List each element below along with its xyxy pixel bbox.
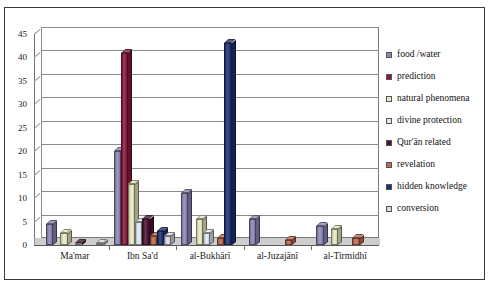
legend-item[interactable]: natural phenomena [386, 88, 482, 110]
legend-item[interactable]: hidden knowledge [386, 176, 482, 198]
legend-item[interactable]: divine protection [386, 110, 482, 132]
bar[interactable] [75, 243, 82, 245]
bar[interactable] [150, 236, 157, 245]
x-axis-tick-label: al-Bukhārī [176, 251, 244, 261]
gridline [41, 215, 379, 216]
bar-front-face [331, 229, 338, 245]
bar-front-face [203, 233, 210, 245]
legend-item-label: prediction [397, 72, 436, 82]
bar[interactable] [135, 222, 142, 245]
legend-item-label: divine protection [397, 116, 462, 126]
bar-front-face [75, 243, 82, 245]
x-axis-tick-label: al-Juzajānī [244, 251, 312, 261]
bar-side-face [53, 221, 57, 245]
y-axis-tick-label: 40 [0, 53, 27, 62]
gridline [41, 121, 379, 122]
legend-swatch-icon [386, 140, 392, 146]
x-axis-tick-mark [176, 245, 177, 250]
x-axis-tick-label: al-Tirmidhī [311, 251, 379, 261]
legend-item[interactable]: prediction [386, 66, 482, 88]
y-axis-tick-label: 10 [0, 194, 27, 203]
x-axis-baseline [34, 245, 379, 246]
bar[interactable] [224, 43, 231, 245]
bar[interactable] [164, 236, 171, 245]
legend-item[interactable]: Qur'ān related [386, 132, 482, 154]
y-axis-tick-label: 20 [0, 147, 27, 156]
gridline [41, 97, 379, 98]
bar[interactable] [196, 219, 203, 245]
y-axis-front-edge [34, 34, 35, 245]
legend-item-label: Qur'ān related [397, 138, 451, 148]
y-axis-tick-label: 25 [0, 123, 27, 132]
legend-item[interactable]: food /water [386, 44, 482, 66]
x-axis-tick-mark [109, 245, 110, 250]
legend-swatch-icon [386, 206, 392, 212]
gridline [41, 168, 379, 169]
gridline [41, 74, 379, 75]
bar-front-face [121, 53, 128, 245]
legend-item-label: revelation [397, 160, 435, 170]
gridline [41, 50, 379, 51]
bar-front-face [164, 236, 171, 245]
bar[interactable] [121, 53, 128, 245]
gridline [41, 191, 379, 192]
bar-front-face [135, 222, 142, 245]
x-axis-tick-label: Ma'mar [41, 251, 109, 261]
legend-swatch-icon [386, 52, 392, 58]
y-axis-tick-label: 30 [0, 100, 27, 109]
gridline [41, 27, 379, 28]
bar-front-face [249, 219, 256, 245]
x-axis-tick-mark [311, 245, 312, 250]
bar[interactable] [128, 184, 135, 245]
bar-front-face [352, 238, 359, 245]
bar[interactable] [157, 231, 164, 245]
bar[interactable] [285, 240, 292, 245]
bar-side-face [324, 223, 328, 245]
legend-swatch-icon [386, 74, 392, 80]
x-axis-tick-mark [244, 245, 245, 250]
y-axis-tick-label: 0 [0, 241, 27, 250]
plot-area: Ma'marIbn Sa'dal-Bukhārīal-Juzajānīal-Ti… [34, 27, 379, 245]
bar[interactable] [46, 224, 53, 245]
bar[interactable] [142, 219, 149, 245]
bar-front-face [46, 224, 53, 245]
legend-item-label: conversion [397, 204, 439, 214]
legend-item[interactable]: conversion [386, 198, 482, 220]
bar-front-face [60, 233, 67, 245]
bar[interactable] [331, 229, 338, 245]
legend-swatch-icon [386, 118, 392, 124]
bar[interactable] [316, 226, 323, 245]
bar[interactable] [96, 243, 103, 245]
y-axis-tick-label: 5 [0, 217, 27, 226]
legend-swatch-icon [386, 184, 392, 190]
legend-item-label: natural phenomena [397, 94, 470, 104]
plot-back-wall [41, 27, 379, 238]
bar[interactable] [60, 233, 67, 245]
x-axis-tick-label: Ibn Sa'd [109, 251, 177, 261]
legend-item-label: food /water [397, 50, 441, 60]
bar[interactable] [352, 238, 359, 245]
y-axis-back-edge [41, 27, 42, 238]
bar[interactable] [217, 238, 224, 245]
chart-legend: food /waterpredictionnatural phenomenadi… [386, 44, 482, 220]
legend-swatch-icon [386, 162, 392, 168]
bar-front-face [157, 231, 164, 245]
bar-front-face [285, 240, 292, 245]
bar[interactable] [114, 151, 121, 245]
bar[interactable] [203, 233, 210, 245]
bar-side-face [256, 216, 260, 245]
legend-item[interactable]: revelation [386, 154, 482, 176]
bar[interactable] [181, 193, 188, 245]
bar-front-face [150, 236, 157, 245]
bar-front-face [142, 219, 149, 245]
bar[interactable] [249, 219, 256, 245]
gridline-depth-edge [34, 29, 41, 35]
bar-front-face [196, 219, 203, 245]
chart-container: Ma'marIbn Sa'dal-Bukhārīal-Juzajānīal-Ti… [0, 0, 490, 289]
legend-item-label: hidden knowledge [397, 182, 467, 192]
bar-front-face [224, 43, 231, 245]
y-axis-tick-label: 35 [0, 76, 27, 85]
legend-swatch-icon [386, 96, 392, 102]
bar-front-face [114, 151, 121, 245]
bar-side-face [232, 40, 236, 245]
